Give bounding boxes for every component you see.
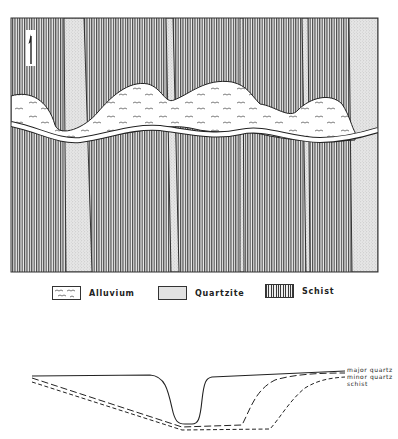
schist-line bbox=[32, 377, 345, 430]
cross-section-profile bbox=[0, 350, 398, 439]
label-schist: schist bbox=[347, 381, 368, 387]
legend: Alluvium Quartzite Schist bbox=[0, 280, 398, 320]
legend-label: Alluvium bbox=[89, 289, 135, 298]
north-arrow-icon bbox=[26, 30, 36, 66]
legend-item-quartzite: Quartzite bbox=[158, 286, 245, 300]
minor-quartz-line bbox=[32, 373, 345, 427]
legend-label: Quartzite bbox=[195, 289, 245, 298]
legend-item-alluvium: Alluvium bbox=[52, 286, 135, 300]
legend-label: Schist bbox=[302, 287, 334, 296]
alluvium-swatch bbox=[52, 286, 81, 300]
quartzite-swatch bbox=[158, 286, 187, 300]
geologic-map bbox=[0, 0, 398, 280]
quartzite-vein-3 bbox=[240, 18, 244, 272]
quartzite-vein-5 bbox=[349, 18, 378, 272]
schist-swatch bbox=[265, 284, 294, 298]
legend-item-schist: Schist bbox=[265, 284, 334, 298]
